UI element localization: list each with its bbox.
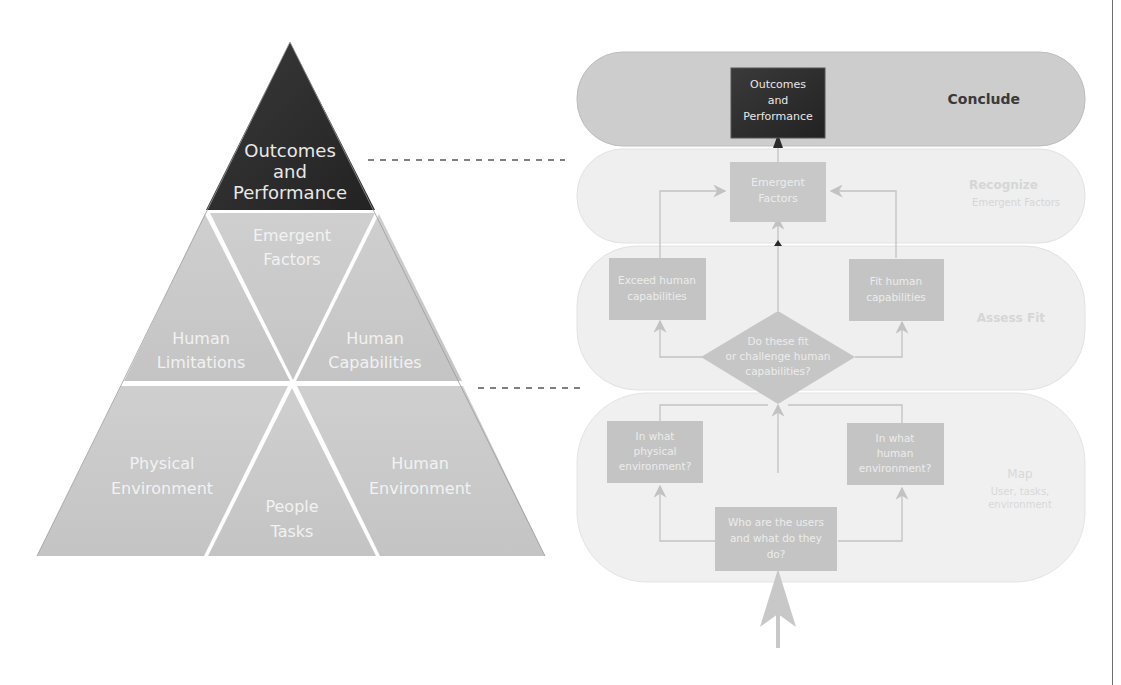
human-capabilities-line2: Capabilities xyxy=(328,353,421,372)
people-tasks-line1: People xyxy=(265,497,318,516)
page-right-border xyxy=(1112,0,1113,685)
decision-line3: capabilities? xyxy=(745,365,810,377)
box-outcomes-line1: Outcomes xyxy=(750,78,806,91)
box-exceed-human-capabilities: Exceed human capabilities xyxy=(609,258,706,320)
box-emergent-factors: Emergent Factors xyxy=(730,162,826,222)
band-assess-title: Assess Fit xyxy=(977,311,1045,325)
box-fit-line2: capabilities xyxy=(866,291,926,303)
physical-environment-line2: Environment xyxy=(111,479,213,498)
human-environment-line1: Human xyxy=(391,454,449,473)
physical-environment-line1: Physical xyxy=(129,454,194,473)
box-outcomes-performance: Outcomes and Performance xyxy=(731,68,825,138)
box-exceed-line2: capabilities xyxy=(627,290,687,302)
box-human-environment: In what human environment? xyxy=(847,423,944,485)
human-limitations-line2: Limitations xyxy=(157,353,245,372)
decision-line1: Do these fit xyxy=(747,335,808,347)
apex-label-line3: Performance xyxy=(233,182,347,203)
box-human-env-line3: environment? xyxy=(859,462,931,474)
band-map-title: Map xyxy=(1007,467,1032,481)
box-emergent-line2: Factors xyxy=(758,192,798,205)
pyramid-apex-outcomes-performance: Outcomes and Performance xyxy=(206,42,375,210)
band-conclude-title: Conclude xyxy=(948,91,1020,107)
box-fit-human-capabilities: Fit human capabilities xyxy=(849,259,944,321)
box-outcomes-line3: Performance xyxy=(743,110,813,123)
human-capabilities-line1: Human xyxy=(346,329,404,348)
box-physical-line2: physical xyxy=(633,445,676,457)
band-recognize-subtitle: Emergent Factors xyxy=(972,197,1060,208)
box-emergent-line1: Emergent xyxy=(751,176,805,189)
band-recognize-title: Recognize xyxy=(969,178,1038,192)
band-recognize xyxy=(577,149,1085,243)
decision-line2: or challenge human xyxy=(726,350,831,362)
diagram-canvas: Outcomes and Performance Human Limitatio… xyxy=(0,0,1121,685)
box-physical-environment: In what physical environment? xyxy=(607,421,703,483)
box-exceed-line1: Exceed human xyxy=(618,274,696,286)
box-users-line2: and what do they xyxy=(730,532,822,544)
apex-label-line1: Outcomes xyxy=(244,140,336,161)
emergent-factors-line1: Emergent xyxy=(253,226,331,245)
box-fit-line1: Fit human xyxy=(870,275,922,287)
apex-label-line2: and xyxy=(273,161,307,182)
human-limitations-line1: Human xyxy=(172,329,230,348)
human-environment-line2: Environment xyxy=(369,479,471,498)
band-map-subtitle-line1: User, tasks, xyxy=(991,486,1050,497)
emergent-factors-line2: Factors xyxy=(263,250,320,269)
band-map-subtitle-line2: environment xyxy=(988,499,1052,510)
box-human-env-line1: In what xyxy=(876,432,915,444)
box-users-line3: do? xyxy=(767,548,786,560)
box-who-are-the-users: Who are the users and what do they do? xyxy=(715,507,837,571)
people-tasks-line2: Tasks xyxy=(270,522,314,541)
flowchart: Conclude Recognize Emergent Factors Asse… xyxy=(577,52,1085,648)
box-physical-line3: environment? xyxy=(619,460,691,472)
box-users-line1: Who are the users xyxy=(728,516,824,528)
box-outcomes-line2: and xyxy=(768,94,789,107)
box-human-env-line2: human xyxy=(877,447,914,459)
box-physical-line1: In what xyxy=(636,430,675,442)
pyramid: Outcomes and Performance Human Limitatio… xyxy=(37,42,545,556)
